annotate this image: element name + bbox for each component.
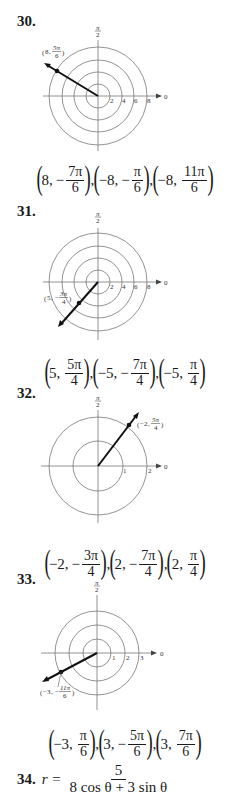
axis-label-den: 2 <box>96 217 100 225</box>
axis-label-den: 2 <box>95 586 99 594</box>
ring-label: 4 <box>122 283 126 291</box>
ring-label: 8 <box>147 283 151 291</box>
ring-label: 3 <box>140 654 144 662</box>
svg-text:4: 4 <box>154 424 158 432</box>
answer-row-33: (−3,π6), (3,−5π6), (3,7π6) <box>0 727 250 761</box>
svg-text:−: − <box>55 688 59 696</box>
axis-label-0: 0 <box>164 279 168 287</box>
problem-34-equation: 34. r = 5 8 cos θ + 3 sin θ <box>17 763 171 796</box>
point-label-30: ( 8 , 5π 6 ) <box>42 44 65 60</box>
polar-plot-33: 1 2 3 0 π 2 ( −3 , − 11π 6 ) <box>0 570 250 720</box>
svg-text:11π: 11π <box>60 684 70 692</box>
axis-label-den: 2 <box>96 401 100 409</box>
svg-text:5π: 5π <box>152 416 160 424</box>
axis-label-den: 2 <box>96 31 100 39</box>
svg-text:,: , <box>49 48 51 56</box>
svg-text:−: − <box>55 294 59 302</box>
answer-point: (−3,π6) <box>50 727 94 761</box>
point-label-31: ( 5 , − 3π 4 ) <box>44 290 72 306</box>
polar-plot-31: 2 4 6 8 0 π 2 ( 5 , − 3π 4 ) <box>0 190 250 350</box>
ring-label: 2 <box>126 654 130 662</box>
svg-text:): ) <box>62 49 65 57</box>
svg-text:): ) <box>161 421 164 429</box>
ring-label: 1 <box>123 467 127 475</box>
svg-text:,: , <box>51 294 53 302</box>
axis-label-0: 0 <box>164 93 168 101</box>
equation-denominator: 8 cos θ + 3 sin θ <box>67 780 169 796</box>
svg-text:,: , <box>148 420 150 428</box>
svg-text:3π: 3π <box>59 290 68 298</box>
axis-label-0: 0 <box>164 463 168 471</box>
svg-text:6: 6 <box>63 692 67 700</box>
ring-label: 1 <box>112 654 116 662</box>
polar-plot-30: 2 4 6 8 0 π 2 ( 8 , 5π 6 ) <box>0 0 250 160</box>
point-label-33: ( −3 , − 11π 6 ) <box>40 684 75 700</box>
equation-lhs: r = <box>42 771 62 788</box>
svg-text:4: 4 <box>62 298 66 306</box>
axis-label-0: 0 <box>160 650 164 658</box>
svg-text:−3: −3 <box>43 688 51 696</box>
problem-number-34: 34. <box>17 771 36 788</box>
svg-text:): ) <box>72 689 75 697</box>
ring-label: 2 <box>110 283 114 291</box>
equation-numerator: 5 <box>111 763 127 780</box>
point-label-32: ( −2 , 5π 4 ) <box>137 416 164 432</box>
equation-fraction: 5 8 cos θ + 3 sin θ <box>67 763 169 796</box>
ring-label: 6 <box>134 283 138 291</box>
answer-point: (3,7π6) <box>157 727 200 761</box>
ring-label: 2 <box>148 467 152 475</box>
svg-text:−2: −2 <box>140 420 148 428</box>
ring-label: 6 <box>134 97 138 105</box>
svg-text:,: , <box>51 688 53 696</box>
polar-plot-32: 1 2 0 π 2 ( −2 , 5π 4 ) <box>0 380 250 540</box>
svg-text:): ) <box>69 295 72 303</box>
ring-label: 4 <box>122 97 126 105</box>
answer-point: (3,−5π6) <box>100 727 151 761</box>
ring-label: 2 <box>110 97 114 105</box>
ring-label: 8 <box>147 97 151 105</box>
svg-text:5π: 5π <box>53 44 61 52</box>
svg-text:6: 6 <box>55 52 59 60</box>
